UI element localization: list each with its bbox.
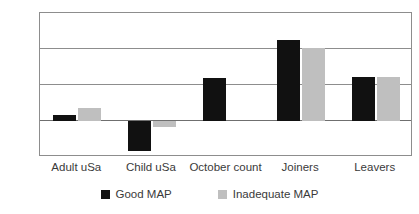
x-axis-tick-label: October count xyxy=(189,160,261,174)
x-axis-tick-label: Adult uSa xyxy=(51,160,101,174)
bar-good-4 xyxy=(352,77,375,121)
legend-swatch-icon xyxy=(101,190,110,199)
plot-area xyxy=(39,12,412,156)
x-axis: Adult uSaChild uSaOctober countJoinersLe… xyxy=(39,160,412,178)
x-axis-tick-label: Leavers xyxy=(354,160,395,174)
legend-swatch-icon xyxy=(218,190,227,199)
bar-inadequate-4 xyxy=(377,77,400,121)
bar-good-1 xyxy=(128,121,151,151)
bar-chart: 15% 10% 5% 0% -5% Adult uSaChild uSaOcto… xyxy=(0,0,419,214)
bar-inadequate-1 xyxy=(153,121,176,127)
legend-label: Good MAP xyxy=(116,188,172,200)
gridline xyxy=(40,48,411,49)
legend-item-inadequate[interactable]: Inadequate MAP xyxy=(218,188,319,200)
legend-label: Inadequate MAP xyxy=(233,188,319,200)
bar-inadequate-3 xyxy=(302,48,325,121)
bar-inadequate-0 xyxy=(78,108,101,121)
x-axis-tick-label: Child uSa xyxy=(126,160,176,174)
legend-item-good[interactable]: Good MAP xyxy=(101,188,172,200)
bar-good-0 xyxy=(53,115,76,121)
bar-good-2 xyxy=(203,78,226,121)
x-axis-tick-label: Joiners xyxy=(282,160,319,174)
legend: Good MAPInadequate MAP xyxy=(0,188,419,200)
bar-good-3 xyxy=(277,40,300,121)
